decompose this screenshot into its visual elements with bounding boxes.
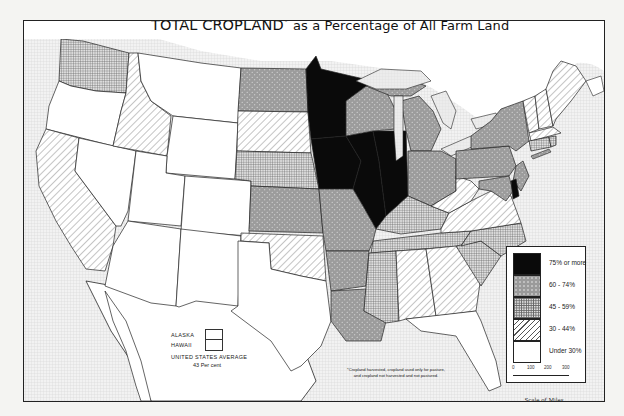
legend-swatch-grid [513,297,541,319]
legend-item-under-30: Under 30% [513,341,585,367]
scale-tick: 200 [544,365,552,370]
state-arkansas [326,251,369,291]
legend-label: Under 30% [549,347,582,354]
map-frame: TOTAL CROPLAND* as a Percentage of All F… [23,20,605,402]
legend-swatch-hatch [513,319,541,341]
us-average-label: UNITED STATES AVERAGE [171,354,247,360]
title-main: TOTAL CROPLAND [151,20,284,33]
title-rest: as a Percentage of All Farm Land [293,20,509,33]
footnote-line-2: and cropland not harvested and not pastu… [331,373,461,379]
alaska-hawaii-inset: ALASKA HAWAII UNITED STATES AVERAGE 43 P… [171,329,271,379]
scale-of-miles: 0 100 200 300 [511,365,581,385]
legend: 75% or more 60 - 74% 45 - 59% 30 - 44% U… [506,246,586,383]
alaska-label: ALASKA [171,332,194,338]
us-average-value: 43 Per cent [193,362,221,368]
state-wyoming [166,116,238,179]
scale-tick: 0 [512,365,515,370]
legend-label: 60 - 74% [549,281,575,288]
legend-swatch-dotted [513,275,541,297]
legend-label: 45 - 59% [549,303,575,310]
map-title: TOTAL CROPLAND* as a Percentage of All F… [151,20,471,33]
hawaii-label: HAWAII [171,342,192,348]
scale-bar [513,373,569,376]
state-south-dakota [237,111,311,153]
state-pennsylvania [456,146,516,179]
scale-tick: 100 [527,365,535,370]
legend-swatch-blank [513,341,541,363]
legend-label: 30 - 44% [549,325,575,332]
scale-label: Scale of Miles [511,397,577,402]
state-kansas [249,186,323,233]
state-new-mexico [176,229,241,307]
scale-tick: 300 [562,365,570,370]
footnote: *Cropland harvested, cropland used only … [331,367,461,379]
state-north-dakota [238,68,308,112]
lake-michigan [394,96,403,161]
hawaii-swatch [205,339,223,351]
legend-label: 75% or more [549,259,586,266]
title-asterisk: * [284,20,289,27]
state-mississippi [364,251,399,323]
legend-swatch-solid-black [513,253,541,275]
state-colorado [181,176,251,236]
